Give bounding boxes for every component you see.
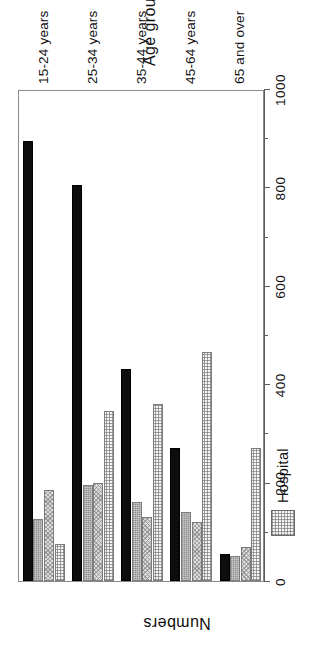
- category-axis-title: Age group: [141, 0, 159, 66]
- bar-chart-figure: Family home'LAPVHospital 020040060080010…: [0, 0, 335, 654]
- value-tick-label-0: 0: [273, 578, 288, 586]
- bar-hospital-1: [104, 411, 114, 581]
- value-tick-500: [264, 335, 268, 336]
- bar-pv-2: [142, 517, 152, 581]
- bar-pv-3: [192, 522, 202, 581]
- bar-family-2: [121, 369, 131, 581]
- value-tick-700: [264, 237, 268, 238]
- bar-la-3: [181, 512, 191, 581]
- value-tick-label-1000: 1000: [273, 74, 288, 106]
- value-tick-label-400: 400: [273, 373, 288, 397]
- bar-pv-1: [93, 483, 103, 581]
- bar-la-4: [230, 556, 240, 581]
- value-axis-title: Numbers: [54, 606, 300, 632]
- value-tick-0: [264, 581, 270, 582]
- bar-family-0: [23, 141, 33, 581]
- value-tick-300: [264, 433, 268, 434]
- category-label-1: 25-34 years: [84, 11, 99, 85]
- value-axis: 02004006008001000: [264, 90, 304, 582]
- bar-family-3: [170, 448, 180, 581]
- bars-layer: [19, 91, 263, 581]
- bar-hospital-3: [202, 352, 212, 581]
- value-tick-200: [264, 483, 270, 484]
- bar-pv-4: [241, 547, 251, 581]
- value-axis-line: [264, 90, 265, 582]
- rotated-figure-wrapper: Family home'LAPVHospital 020040060080010…: [0, 0, 335, 654]
- value-tick-400: [264, 384, 270, 385]
- bar-family-4: [220, 554, 230, 581]
- value-tick-label-800: 800: [273, 176, 288, 200]
- value-tick-900: [264, 138, 268, 139]
- value-tick-label-600: 600: [273, 275, 288, 299]
- plot-area: [18, 90, 264, 582]
- bar-family-1: [72, 185, 82, 581]
- bar-la-0: [33, 520, 43, 582]
- value-tick-600: [264, 286, 270, 287]
- bar-hospital-0: [55, 544, 65, 581]
- value-tick-label-200: 200: [273, 472, 288, 496]
- value-tick-1000: [264, 89, 270, 90]
- value-tick-800: [264, 187, 270, 188]
- category-label-3: 45-64 years: [183, 11, 198, 85]
- value-tick-100: [264, 532, 268, 533]
- category-label-0: 15-24 years: [35, 11, 50, 85]
- category-label-4: 65 and over: [232, 10, 247, 84]
- bar-pv-0: [44, 490, 54, 581]
- bar-hospital-4: [251, 448, 261, 581]
- bar-la-2: [132, 502, 142, 581]
- bar-la-1: [83, 485, 93, 581]
- bar-hospital-2: [153, 404, 163, 581]
